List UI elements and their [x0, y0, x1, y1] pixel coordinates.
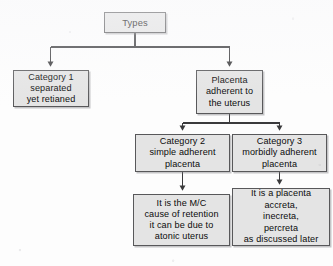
node-detail-category-3[interactable]: It is a placenta accreta, inecreta, perc…: [232, 188, 330, 246]
node-category-3-line-3: placenta: [233, 159, 326, 170]
node-detail-category-3-line-4: percreta: [233, 223, 329, 234]
flowchart-canvas: Types Category 1 separated yet retianed …: [0, 0, 333, 266]
node-category-2-line-1: Category 2: [136, 136, 229, 147]
node-types-line-1: Types: [105, 17, 165, 28]
node-category-1[interactable]: Category 1 separated yet retianed: [13, 70, 89, 107]
node-category-2-line-2: simple adherent: [136, 147, 229, 158]
node-category-1-line-3: yet retianed: [14, 94, 88, 105]
node-placenta-adherent[interactable]: Placenta adherent to the uterus: [196, 70, 263, 114]
node-category-2-line-3: placenta: [136, 159, 229, 170]
node-placenta-adherent-line-3: the uterus: [197, 98, 262, 109]
node-category-3[interactable]: Category 3 morbidly adherent placenta: [232, 134, 327, 172]
node-detail-category-3-line-2: accreta,: [233, 200, 329, 211]
node-category-1-line-1: Category 1: [14, 72, 88, 83]
node-category-3-line-2: morbidly adherent: [233, 147, 326, 158]
node-detail-category-2-line-4: atonic uterus: [134, 231, 229, 242]
node-category-3-line-1: Category 3: [233, 136, 326, 147]
node-detail-category-2[interactable]: It is the M/C cause of retention it can …: [133, 194, 230, 246]
node-detail-category-2-line-1: It is the M/C: [134, 198, 229, 209]
node-detail-category-3-line-5: as discussed later: [233, 234, 329, 245]
node-types[interactable]: Types: [104, 12, 166, 33]
node-category-1-line-2: separated: [14, 83, 88, 94]
node-category-2[interactable]: Category 2 simple adherent placenta: [135, 134, 230, 172]
node-detail-category-3-line-3: inecreta,: [233, 211, 329, 222]
node-detail-category-3-line-1: It is a placenta: [233, 188, 329, 199]
node-placenta-adherent-line-1: Placenta: [197, 75, 262, 86]
node-detail-category-2-line-3: it can be due to: [134, 220, 229, 231]
node-detail-category-2-line-2: cause of retention: [134, 209, 229, 220]
node-placenta-adherent-line-2: adherent to: [197, 86, 262, 97]
